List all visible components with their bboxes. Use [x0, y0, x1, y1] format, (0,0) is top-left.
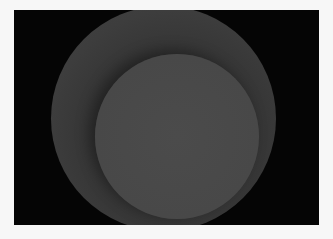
image-frame: [0, 0, 333, 239]
black-background: [14, 10, 319, 225]
inner-circle: [95, 54, 259, 219]
